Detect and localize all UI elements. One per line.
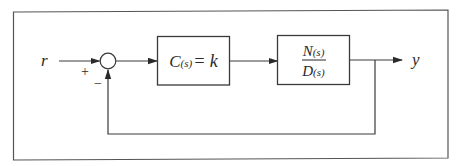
plant-denominator: D(s) [301,63,325,79]
block-diagram: r + − C(s)= k N(s) D(s) y [0,0,460,166]
plant-numerator: N(s) [302,43,325,59]
minus-sign: − [94,76,102,91]
outer-frame-border [14,10,449,160]
input-label: r [41,51,48,70]
summing-junction [100,53,116,69]
controller-label: C(s)= k [169,51,219,71]
plus-sign: + [81,64,89,79]
output-label: y [410,50,420,69]
